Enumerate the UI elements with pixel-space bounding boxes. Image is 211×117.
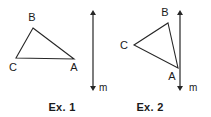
vertex-label-a: A bbox=[70, 61, 78, 73]
line-m-label: m bbox=[189, 82, 197, 93]
vertex-label-b: B bbox=[161, 6, 168, 18]
line-m-arrowhead-bottom bbox=[90, 86, 96, 91]
example-1-group: A B C m Ex. 1 bbox=[9, 10, 107, 113]
line-m-label: m bbox=[99, 82, 107, 93]
diagram-canvas: A B C m Ex. 1 A B C m Ex. 2 bbox=[0, 0, 211, 117]
vertex-label-b: B bbox=[28, 11, 35, 23]
line-m-arrowhead-top bbox=[177, 10, 183, 15]
example-caption: Ex. 2 bbox=[136, 101, 163, 113]
example-2-group: A B C m Ex. 2 bbox=[120, 6, 197, 113]
triangle-abc-outline bbox=[134, 23, 178, 68]
geometry-figure: A B C m Ex. 1 A B C m Ex. 2 bbox=[0, 0, 211, 117]
vertex-label-c: C bbox=[120, 39, 128, 51]
line-m-arrowhead-top bbox=[90, 10, 96, 15]
vertex-label-c: C bbox=[9, 61, 17, 73]
vertex-label-a: A bbox=[168, 70, 176, 82]
line-m-arrowhead-bottom bbox=[177, 86, 183, 91]
example-caption: Ex. 1 bbox=[48, 101, 75, 113]
triangle-abc-outline bbox=[16, 28, 74, 59]
